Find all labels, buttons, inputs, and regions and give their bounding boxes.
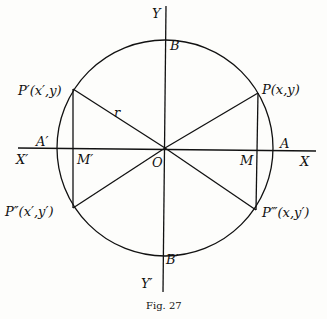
label-y-prime: Y′ [141, 276, 153, 291]
label-m: M [239, 153, 254, 168]
figure-caption: Fig. 27 [146, 300, 182, 311]
label-b: B [169, 38, 180, 53]
unit-circle-diagram: Y B P(x,y) P′(x′,y) r A′ X′ M′ O M A X P… [0, 0, 327, 319]
label-m-prime: M′ [76, 152, 93, 167]
label-b-prime: B′ [165, 252, 179, 267]
label-a: A [279, 136, 289, 151]
label-p-prime: P′(x′,y) [17, 83, 62, 98]
label-x: X [299, 154, 310, 169]
label-p-triple-prime: P‴(x,y′) [261, 205, 309, 220]
label-p: P(x,y) [261, 82, 300, 97]
label-x-prime: X′ [15, 152, 28, 167]
label-p-double-prime: P″(x′,y′) [4, 204, 53, 219]
label-a-prime: A′ [35, 134, 48, 149]
label-y: Y [152, 6, 162, 21]
label-r: r [114, 105, 121, 120]
vertical-pm [256, 93, 258, 210]
label-o: O [152, 155, 163, 170]
radius-op [165, 93, 258, 148]
